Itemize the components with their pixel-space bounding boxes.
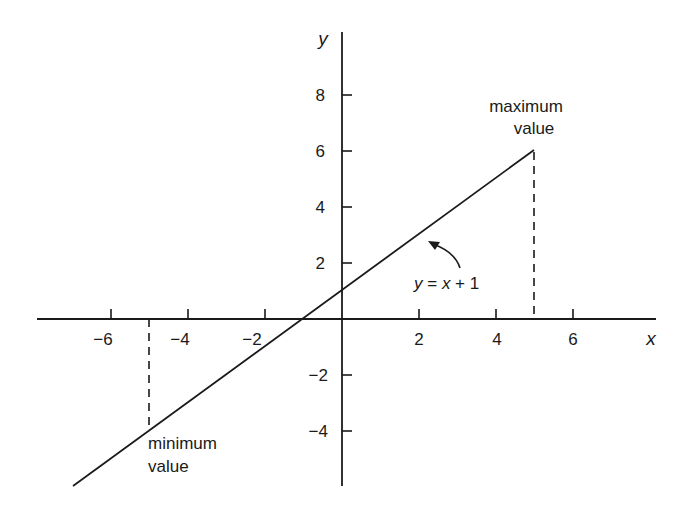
y-axis-label: y — [316, 28, 329, 49]
equation-label: y = x + 1 — [413, 274, 479, 293]
y-ticks — [342, 95, 352, 431]
y-tick-label: 2 — [316, 254, 325, 273]
y-tick-label: 6 — [316, 142, 325, 161]
function-plot: −6 −4 −2 2 4 6 8 6 4 2 −2 −4 y x maximum… — [0, 0, 694, 506]
x-tick-label: 2 — [414, 330, 423, 349]
y-tick-label: 4 — [316, 198, 325, 217]
y-tick-label: −4 — [309, 422, 328, 441]
pointer-arrow-icon — [433, 244, 460, 268]
x-tick-label: −6 — [93, 330, 112, 349]
x-tick-label: −4 — [170, 330, 189, 349]
x-tick-label: 4 — [492, 330, 501, 349]
x-tick-label: −2 — [242, 330, 261, 349]
min-label-line1: minimum — [148, 434, 217, 453]
max-label-line1: maximum — [489, 97, 563, 116]
max-label-line2: value — [514, 119, 555, 138]
min-label-line2: value — [148, 457, 189, 476]
y-tick-label: −2 — [309, 366, 328, 385]
x-axis-label: x — [645, 328, 657, 349]
y-tick-label: 8 — [316, 86, 325, 105]
x-tick-label: 6 — [568, 330, 577, 349]
function-line — [73, 150, 534, 486]
